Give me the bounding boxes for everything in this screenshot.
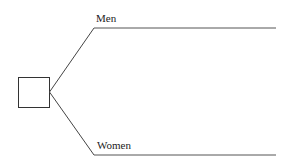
branch-women-diagonal: [50, 92, 95, 155]
decision-node: [19, 78, 50, 108]
branch-label-women: Women: [97, 139, 131, 151]
branch-label-men: Men: [96, 12, 116, 24]
branch-men-diagonal: [50, 28, 95, 92]
tree-diagram: [0, 0, 295, 164]
